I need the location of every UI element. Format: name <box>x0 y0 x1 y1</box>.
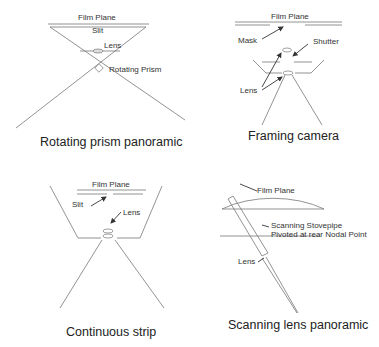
slit-label: Slit <box>72 200 84 209</box>
lens-label: Lens <box>238 257 255 266</box>
film-plane-label: Film Plane <box>92 180 130 189</box>
ray-line <box>16 27 146 128</box>
panel-framing-camera: Film Plane Mask Shutter Lens Framing cam… <box>235 12 342 143</box>
lens-icon <box>93 49 103 53</box>
lens-icon <box>283 71 293 75</box>
stovepipe-leader <box>262 225 269 227</box>
ray-line <box>266 257 298 313</box>
lens-icon <box>103 234 113 238</box>
stovepipe-label: Scanning Stovepipe <box>271 221 343 230</box>
lens-label: Lens <box>240 86 257 95</box>
film-plane-label: Film Plane <box>271 12 309 21</box>
ray-line <box>115 240 164 308</box>
lens-arrow <box>111 212 121 223</box>
caption: Rotating prism panoramic <box>40 135 182 149</box>
slit-label: Slit <box>92 26 104 35</box>
film-plane-label: Film Plane <box>257 186 295 195</box>
lens-label: Lens <box>123 208 140 217</box>
stovepipe-end <box>228 196 233 199</box>
ray-line <box>262 258 297 313</box>
panel-rotating-prism: Film Plane Slit Lens Rotating Prism Rota… <box>16 13 185 149</box>
caption: Continuous strip <box>66 325 156 339</box>
lens-icon <box>103 229 113 233</box>
mask-label: Mask <box>238 36 258 45</box>
stovepipe-line <box>228 199 262 256</box>
film-plane-label: Film Plane <box>78 13 116 22</box>
film-plane-leader <box>240 184 257 191</box>
prism-label: Rotating Prism <box>109 65 162 74</box>
caption: Scanning lens panoramic <box>228 318 368 332</box>
prism-icon <box>95 64 103 72</box>
shutter-label: Shutter <box>313 37 339 46</box>
caption: Framing camera <box>248 129 339 143</box>
lens-icon <box>283 48 292 52</box>
camera-types-diagram: Film Plane Slit Lens Rotating Prism Rota… <box>0 0 379 347</box>
lens-arrow <box>262 53 281 87</box>
lens-mark <box>262 253 268 256</box>
panel-scanning-lens: Film Plane Scanning Stovepipe Pivoted at… <box>220 184 368 332</box>
slit-arrow <box>91 197 106 206</box>
stovepipe-line <box>233 196 268 253</box>
panel-continuous-strip: Film Plane Slit Lens Continuous strip <box>50 180 164 339</box>
ray-line <box>60 240 102 308</box>
ray-line <box>292 75 322 125</box>
mask-arrow <box>262 27 283 39</box>
lens-label: Lens <box>104 41 121 50</box>
pivot-label: Pivoted at rear Nodal Point <box>271 230 367 239</box>
shutter-arrow <box>293 44 308 56</box>
